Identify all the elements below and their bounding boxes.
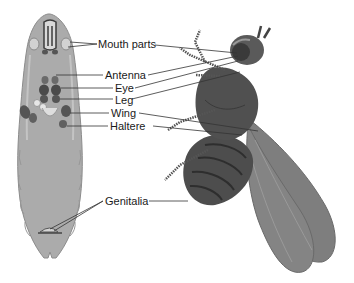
label-antenna: Antenna (105, 69, 146, 81)
larva-figure (18, 14, 83, 258)
fly-figure (165, 26, 335, 272)
diagram: imaginal discs of larva and correspondin… (0, 0, 354, 283)
illustration (0, 0, 354, 283)
label-wing: Wing (111, 107, 136, 119)
label-mouth-parts: Mouth parts (98, 38, 156, 50)
label-haltere: Haltere (110, 120, 145, 132)
label-leg: Leg (115, 94, 133, 106)
label-eye: Eye (115, 82, 134, 94)
label-genitalia: Genitalia (105, 195, 148, 207)
